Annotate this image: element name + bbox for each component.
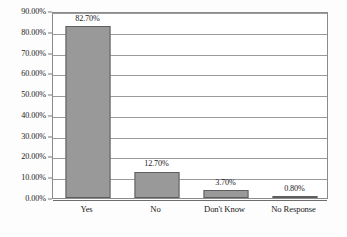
bar[interactable]	[134, 172, 179, 198]
y-axis-tick-label: 50.00%	[21, 91, 46, 99]
y-axis-tick-label: 20.00%	[21, 153, 46, 161]
y-axis-tick-label: 90.00%	[21, 8, 46, 16]
bar-value-label: 12.70%	[144, 160, 169, 168]
x-axis-tick-label: No Response	[259, 205, 328, 214]
y-axis-tick-label: 40.00%	[21, 112, 46, 120]
x-axis-tick-label: Don't Know	[190, 205, 259, 214]
plot-area: 82.70%12.70%3.70%0.80%	[52, 12, 328, 199]
y-axis-tick-label: 0.00%	[25, 195, 46, 203]
bar-slot: 3.70%	[191, 13, 260, 198]
bars: 82.70%12.70%3.70%0.80%	[53, 13, 327, 198]
y-axis-tick-label: 80.00%	[21, 29, 46, 37]
bar-chart: 0.00%10.00%20.00%30.00%40.00%50.00%60.00…	[0, 0, 347, 237]
y-axis: 0.00%10.00%20.00%30.00%40.00%50.00%60.00…	[0, 12, 50, 199]
y-axis-tick-label: 60.00%	[21, 70, 46, 78]
bar-value-label: 3.70%	[215, 179, 236, 187]
bar-slot: 82.70%	[53, 13, 122, 198]
bar-slot: 12.70%	[122, 13, 191, 198]
bar-slot: 0.80%	[260, 13, 329, 198]
bar[interactable]	[272, 196, 317, 198]
y-axis-tick-label: 70.00%	[21, 49, 46, 57]
x-axis-tick-label: Yes	[52, 205, 121, 214]
bar-value-label: 0.80%	[284, 185, 305, 193]
bar-value-label: 82.70%	[75, 15, 100, 23]
bar[interactable]	[203, 190, 248, 198]
x-axis-tick-label: No	[121, 205, 190, 214]
gridline	[53, 200, 327, 201]
x-axis: YesNoDon't KnowNo Response	[52, 203, 328, 225]
y-axis-tick-label: 10.00%	[21, 174, 46, 182]
y-axis-tick-label: 30.00%	[21, 133, 46, 141]
bar[interactable]	[65, 26, 110, 198]
